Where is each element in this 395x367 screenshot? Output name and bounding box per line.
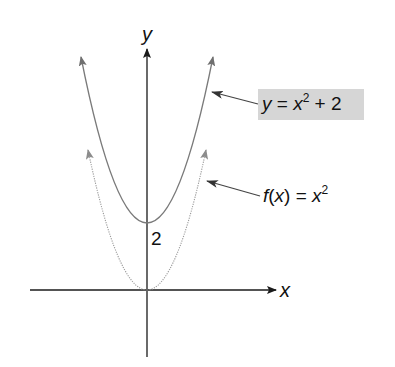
upper-label-pointer bbox=[212, 92, 258, 104]
lower-eq-op: = bbox=[290, 185, 312, 206]
upper-equation-label: y = x2 + 2 bbox=[262, 94, 342, 113]
x-axis-label: x bbox=[280, 280, 290, 300]
lower-label-pointer bbox=[207, 181, 260, 196]
y-axis-label: y bbox=[142, 24, 152, 44]
lower-eq-exp: 2 bbox=[322, 183, 329, 197]
upper-eq-var: x bbox=[293, 93, 303, 114]
curve-upper-left bbox=[81, 57, 147, 223]
parabola-plot bbox=[0, 0, 395, 367]
lower-eq-var: x bbox=[312, 185, 322, 206]
intercept-label: 2 bbox=[151, 229, 162, 248]
upper-eq-op: = bbox=[272, 93, 294, 114]
lower-equation-label: f(x) = x2 bbox=[263, 186, 328, 205]
upper-eq-lhs: y bbox=[262, 93, 272, 114]
upper-eq-exp: 2 bbox=[303, 91, 310, 105]
upper-eq-tail: + 2 bbox=[309, 93, 341, 114]
lower-eq-arg: x bbox=[275, 185, 285, 206]
curve-upper-right bbox=[147, 57, 213, 223]
